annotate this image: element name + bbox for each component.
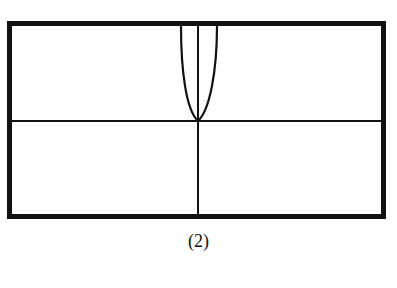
figure-caption: (2) bbox=[0, 231, 397, 252]
